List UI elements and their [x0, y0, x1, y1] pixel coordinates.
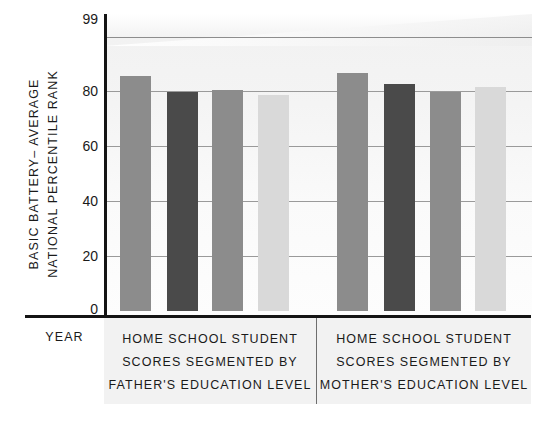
plot-area	[104, 14, 532, 316]
bar-group2-2	[384, 84, 415, 311]
bar-group1-3	[212, 90, 243, 311]
gridline-99	[104, 37, 532, 38]
y-axis-title-line-1: BASIC BATTERY– AVERAGE	[25, 70, 44, 278]
bar-group2-4	[475, 87, 506, 311]
y-tick-99: 99	[52, 12, 98, 26]
y-tick-20: 20	[52, 249, 98, 263]
bar-group1-2	[167, 92, 198, 311]
y-tick-80: 80	[52, 84, 98, 98]
category-cell-father: HOME SCHOOL STUDENT SCORES SEGMENTED BY …	[104, 318, 316, 404]
y-tick-40: 40	[52, 194, 98, 208]
bar-group1-4	[258, 95, 289, 311]
category-mother-line-1: HOME SCHOOL STUDENT	[317, 328, 531, 351]
chart-figure: BASIC BATTERY– AVERAGE NATIONAL PERCENTI…	[0, 0, 542, 426]
clipped-title-remnant	[120, 0, 420, 5]
y-axis-line	[104, 14, 107, 316]
y-tick-60: 60	[52, 139, 98, 153]
category-father-line-2: SCORES SEGMENTED BY	[104, 351, 316, 374]
category-mother-line-2: SCORES SEGMENTED BY	[317, 351, 531, 374]
year-axis-label: YEAR	[25, 318, 104, 404]
category-cell-mother: HOME SCHOOL STUDENT SCORES SEGMENTED BY …	[317, 318, 531, 404]
category-father-line-3: FATHER'S EDUCATION LEVEL	[104, 374, 316, 397]
category-mother-line-3: MOTHER'S EDUCATION LEVEL	[317, 374, 531, 397]
bar-group2-3	[430, 92, 461, 311]
y-tick-0: 0	[52, 302, 98, 316]
category-table: YEAR HOME SCHOOL STUDENT SCORES SEGMENTE…	[25, 318, 531, 404]
bar-group1-1	[120, 76, 151, 311]
category-father-line-1: HOME SCHOOL STUDENT	[104, 328, 316, 351]
bar-group2-1	[337, 73, 368, 311]
